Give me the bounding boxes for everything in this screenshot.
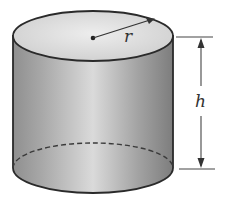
- height-arrowhead-down: [198, 158, 205, 168]
- height-label: h: [195, 91, 206, 111]
- height-arrowhead-up: [198, 38, 205, 48]
- cylinder-diagram: r h: [0, 0, 226, 204]
- radius-label: r: [124, 26, 133, 46]
